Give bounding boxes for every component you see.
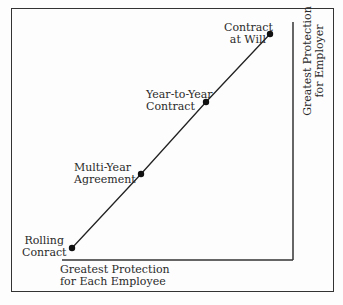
diagram-canvas (0, 0, 343, 305)
label-line: Contract (146, 101, 213, 113)
label-year-to-year-contract: Year-to-Year Contract (146, 89, 213, 113)
label-line: for Employer (314, 6, 326, 116)
point-rolling-contract (69, 245, 75, 251)
label-line: Conract (22, 247, 64, 259)
x-axis-label: Greatest Protection for Each Employee (60, 264, 170, 288)
point-multi-year-agreement (138, 171, 144, 177)
label-line: at Will (224, 34, 266, 46)
label-line: for Each Employee (60, 276, 170, 288)
label-rolling-contract: Rolling Conract (22, 235, 64, 259)
label-line: Agreement (74, 174, 130, 186)
label-contract-at-will: Contract at Will (224, 22, 266, 46)
trend-line (72, 34, 270, 248)
label-multi-year-agreement: Multi-Year Agreement (74, 162, 130, 186)
y-axis-label: Greatest Protection for Employer (302, 6, 328, 116)
